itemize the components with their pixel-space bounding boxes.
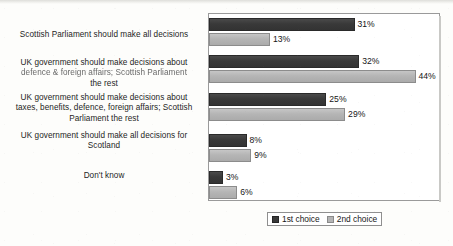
category-label-2: UK government should make decisions abou… [2, 93, 206, 124]
light-gray-swatch-icon [327, 216, 334, 223]
bar-value-1-1st: 32% [362, 56, 379, 67]
bar-value-4-1st: 3% [226, 172, 238, 183]
bar-row-0-1st: 31% [209, 18, 439, 31]
legend-label-1st-choice: 1st choice [282, 214, 320, 224]
bar-row-3-2nd: 9% [209, 149, 439, 162]
category-label-column: Scottish Parliament should make all deci… [2, 13, 206, 201]
bar-1-2nd-choice[interactable] [209, 70, 416, 83]
bar-value-1-2nd: 44% [419, 71, 436, 82]
legend-item-1st-choice[interactable]: 1st choice [272, 214, 320, 224]
category-label-4-line-0: Don't know [2, 171, 206, 181]
chart-legend: 1st choice 2nd choice [267, 212, 382, 226]
horizontal-bar-chart: Scottish Parliament should make all deci… [0, 0, 453, 246]
category-label-2-line-1: taxes, benefits, defence, foreign affair… [2, 103, 206, 113]
category-label-4: Don't know [2, 171, 206, 181]
bar-row-4-2nd: 6% [209, 186, 439, 199]
bar-2-1st-choice[interactable] [209, 93, 326, 106]
bar-row-0-2nd: 13% [209, 33, 439, 46]
bar-row-1-2nd: 44% [209, 70, 439, 83]
legend-item-2nd-choice[interactable]: 2nd choice [327, 214, 378, 224]
bar-0-2nd-choice[interactable] [209, 33, 270, 46]
category-label-1-line-1: defence & foreign affairs; Scottish Parl… [2, 68, 206, 78]
bar-group-0: 31% 13% [209, 18, 439, 48]
dark-gray-swatch-icon [272, 216, 279, 223]
bar-group-2: 25% 29% [209, 93, 439, 123]
category-label-0: Scottish Parliament should make all deci… [2, 30, 206, 40]
bar-group-3: 8% 9% [209, 134, 439, 164]
category-label-1-line-0: UK government should make decisions abou… [2, 58, 206, 68]
bar-value-2-1st: 25% [329, 94, 346, 105]
category-label-1-line-2: the rest [2, 79, 206, 89]
bar-1-1st-choice[interactable] [209, 55, 359, 68]
bar-row-2-2nd: 29% [209, 108, 439, 121]
category-label-1: UK government should make decisions abou… [2, 58, 206, 89]
bars-layer: 31% 13% 32% 44% 25% 29% [209, 14, 439, 200]
bar-value-3-1st: 8% [250, 135, 262, 146]
category-label-3: UK government should make all decisions … [2, 131, 206, 152]
category-label-3-line-0: UK government should make all decisions … [2, 131, 206, 141]
bar-value-0-2nd: 13% [273, 34, 290, 45]
bar-4-2nd-choice[interactable] [209, 186, 237, 199]
bar-value-0-1st: 31% [358, 19, 375, 30]
bar-group-1: 32% 44% [209, 55, 439, 85]
bar-value-2-2nd: 29% [348, 109, 365, 120]
bar-group-4: 3% 6% [209, 171, 439, 201]
bar-row-2-1st: 25% [209, 93, 439, 106]
category-label-3-line-1: Scotland [2, 141, 206, 151]
category-label-2-line-0: UK government should make decisions abou… [2, 93, 206, 103]
bar-value-3-2nd: 9% [254, 150, 266, 161]
bar-row-3-1st: 8% [209, 134, 439, 147]
bar-3-1st-choice[interactable] [209, 134, 247, 147]
bar-row-1-1st: 32% [209, 55, 439, 68]
category-label-2-line-2: Parliament the rest [2, 114, 206, 124]
bar-3-2nd-choice[interactable] [209, 149, 251, 162]
bar-2-2nd-choice[interactable] [209, 108, 345, 121]
category-label-0-line-0: Scottish Parliament should make all deci… [2, 30, 206, 40]
bar-0-1st-choice[interactable] [209, 18, 355, 31]
bar-4-1st-choice[interactable] [209, 171, 223, 184]
bar-row-4-1st: 3% [209, 171, 439, 184]
bar-value-4-2nd: 6% [240, 187, 252, 198]
legend-label-2nd-choice: 2nd choice [337, 214, 378, 224]
scan-edge-artifact [0, 0, 453, 4]
